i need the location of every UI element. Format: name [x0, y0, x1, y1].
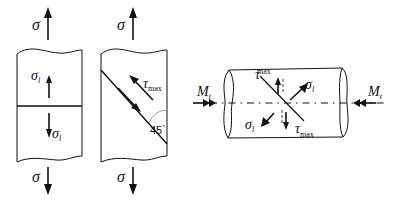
- bottom-load-arrow-icon: [129, 167, 137, 195]
- upper-stress-label: σl: [31, 68, 41, 85]
- stress-left-label: σl: [245, 117, 255, 134]
- lower-stress-label: σl: [52, 126, 62, 143]
- right-moment-label: Mt: [367, 84, 383, 101]
- element-diagonal: [260, 76, 304, 121]
- angle-label: 45°: [150, 124, 165, 136]
- bottom-load-arrow-icon: [44, 167, 52, 195]
- top-load-label: σ: [32, 16, 41, 33]
- left-moment-label: Mt: [196, 84, 212, 101]
- angle-arc: [149, 110, 167, 124]
- top-load-arrow-icon: [129, 7, 137, 40]
- right-moment-arrow-icon: [353, 99, 376, 107]
- shear-top-arrow-icon: [275, 77, 283, 94]
- bottom-load-label: σ: [32, 168, 41, 185]
- top-load-label: σ: [117, 16, 126, 33]
- shear-arrow-lower-icon: [118, 88, 141, 112]
- stress-left-arrow-icon: [261, 113, 274, 127]
- top-load-arrow-icon: [44, 7, 52, 40]
- panel-axial-section: σ σl σl σ: [17, 7, 82, 195]
- panel-torsion-cylinder: Mt Mt τmax τmax: [193, 67, 385, 139]
- shear-bottom-label: τmax: [295, 121, 314, 139]
- panel-inclined-section: σ τmax 45° σ: [101, 7, 167, 195]
- left-moment-arrow-icon: [193, 99, 216, 107]
- bottom-load-label: σ: [117, 168, 126, 185]
- shear-label: τmax: [143, 76, 162, 93]
- stress-diagram: σ σl σl σ: [0, 0, 395, 201]
- stress-right-label: σl: [305, 77, 315, 94]
- cylinder-left-end: [224, 70, 234, 138]
- shear-bottom-arrow-icon: [282, 110, 289, 130]
- upper-stress-arrow-icon: [46, 75, 52, 98]
